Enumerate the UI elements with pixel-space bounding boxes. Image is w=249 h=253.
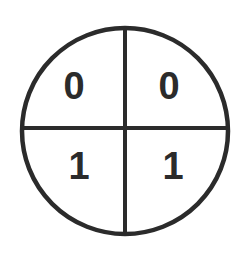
- diagram-canvas: 0 0 1 1: [0, 0, 249, 253]
- quadrant-label-top-right: 0: [158, 65, 179, 107]
- quadrant-label-bottom-left: 1: [68, 145, 89, 187]
- quadrant-circle-diagram: 0 0 1 1: [0, 0, 249, 253]
- quadrant-label-top-left: 0: [63, 65, 84, 107]
- quadrant-label-bottom-right: 1: [162, 145, 183, 187]
